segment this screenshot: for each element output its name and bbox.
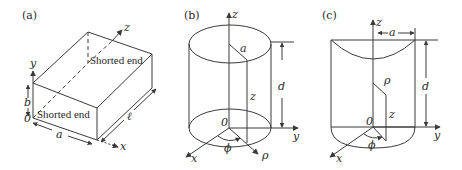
box-right-face xyxy=(97,54,152,140)
z-axis-label-a: z xyxy=(123,21,130,34)
l-dim-lower xyxy=(101,120,124,142)
z-axis-label-c: z xyxy=(375,16,382,29)
origin-label-b: 0 xyxy=(221,116,228,129)
phi-label-c: ϕ xyxy=(368,139,376,152)
x-axis-arrow xyxy=(112,145,118,147)
rho-label-b: ρ xyxy=(261,149,269,162)
x-axis-label-c: x xyxy=(336,152,343,165)
panel-label-c: (c) xyxy=(322,9,337,22)
phi-label-b: ϕ xyxy=(224,142,232,155)
panel-label-b: (b) xyxy=(184,9,200,22)
x-axis-label-b: x xyxy=(191,152,198,165)
shorted-end-front: Shorted end xyxy=(37,108,90,120)
panel-a: (a) z y b 0 Shorted end Shorted end a ℓ xyxy=(22,9,156,153)
d-dimension-label-c: d xyxy=(422,80,429,93)
y-axis-label-b: y xyxy=(292,130,300,143)
radius-label-c: a xyxy=(389,26,396,39)
y-axis-label-c: y xyxy=(433,129,441,142)
y-axis-label-a: y xyxy=(29,57,37,70)
radius-label-b: a xyxy=(240,42,247,55)
l-dimension-label: ℓ xyxy=(127,110,132,123)
origin-label-c: 0 xyxy=(366,115,373,128)
z-coordinate-label-c: z xyxy=(388,108,395,121)
a-dimension-label: a xyxy=(56,128,63,141)
box-top-face xyxy=(33,32,152,108)
panel-label-a: (a) xyxy=(22,9,37,22)
panel-c: (c) z a ρ z y x ϕ 0 xyxy=(322,9,441,165)
phi-arc-c xyxy=(364,134,382,138)
z-axis-label-b: z xyxy=(231,8,238,21)
x-axis-label-a: x xyxy=(120,140,127,153)
shorted-end-back: Shorted end xyxy=(90,54,143,66)
l-dim-upper xyxy=(134,89,156,110)
b-dimension-label: b xyxy=(24,96,31,109)
cavity-diagram: (a) z y b 0 Shorted end Shorted end a ℓ xyxy=(0,0,462,170)
cylinder-top xyxy=(189,25,271,63)
z-axis-arrow xyxy=(112,30,122,41)
origin-label-a: 0 xyxy=(24,112,31,125)
panel-b: (b) z a z y x ρ ϕ 0 d xyxy=(184,8,300,165)
phi-arc-b xyxy=(218,136,240,141)
rho-axis-b xyxy=(229,128,258,154)
z-coordinate-label-b: z xyxy=(249,90,256,103)
d-dimension-label-b: d xyxy=(278,80,285,93)
rho-label-c: ρ xyxy=(383,74,391,87)
